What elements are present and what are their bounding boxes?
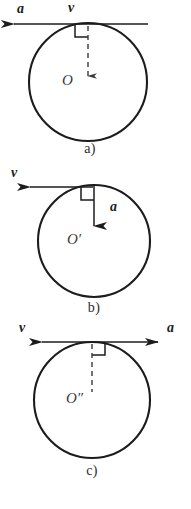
center-label-panel-a: O <box>62 72 73 89</box>
panel-a <box>14 23 148 141</box>
label-v-panel-c: v <box>19 320 25 336</box>
caption-panel-c: c) <box>72 463 112 479</box>
label-v-panel-b: v <box>11 165 17 181</box>
right-angle-marker-a <box>75 24 88 37</box>
label-a-panel-b: a <box>110 199 117 215</box>
panel-b <box>30 185 150 297</box>
right-angle-marker-b <box>81 187 94 200</box>
center-label-panel-b: O′ <box>67 231 81 248</box>
label-v-panel-a: v <box>68 0 74 16</box>
label-a-panel-a: a <box>17 1 24 17</box>
panel-c <box>34 342 158 458</box>
center-label-panel-c: O″ <box>66 390 83 407</box>
circle-a <box>29 23 147 141</box>
circle-c <box>34 342 150 458</box>
label-a-panel-c: a <box>167 320 174 336</box>
caption-panel-a: a) <box>70 141 110 157</box>
physics-figure-circular-motion: a v O a) v a O′ b) v a O″ c) <box>0 0 191 509</box>
figure-svg <box>0 0 191 509</box>
caption-panel-b: b) <box>74 300 114 316</box>
